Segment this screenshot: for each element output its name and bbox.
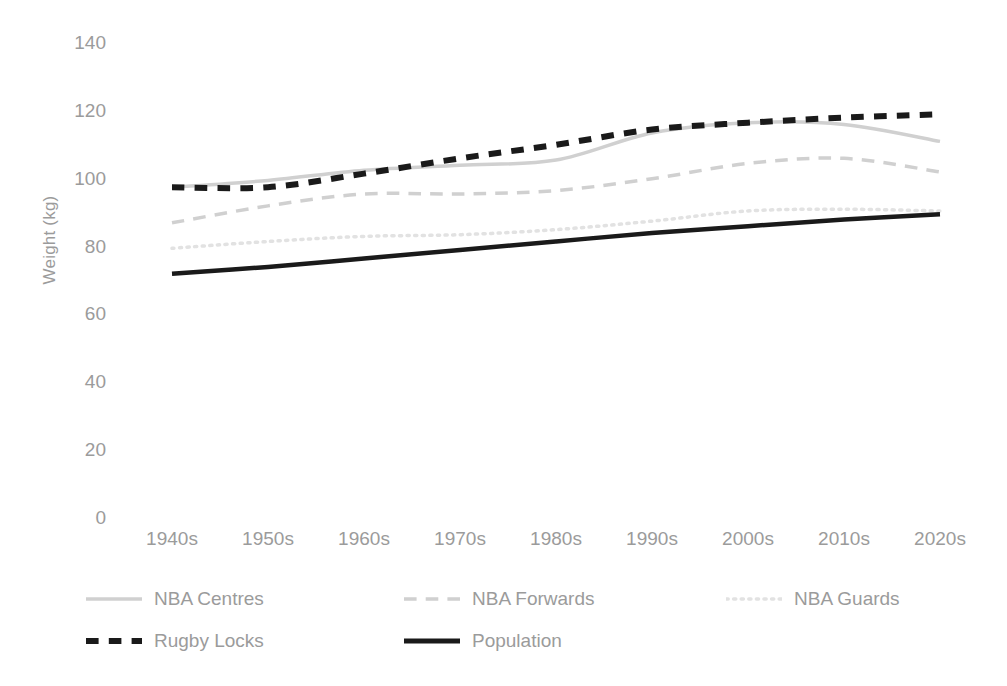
legend-label-population: Population — [472, 630, 562, 652]
legend-swatch-rugby-locks — [86, 633, 142, 649]
chart-legend: NBA Centres NBA Forwards NBA Guards Rugb… — [86, 578, 986, 662]
legend-swatch-nba-forwards — [404, 591, 460, 607]
series-line-nba-forwards — [172, 158, 940, 223]
legend-swatch-nba-centres — [86, 591, 142, 607]
line-chart: Weight (kg) 140120100806040200 1940s1950… — [0, 0, 1007, 686]
legend-label-nba-centres: NBA Centres — [154, 588, 264, 610]
legend-label-nba-forwards: NBA Forwards — [472, 588, 594, 610]
legend-swatch-nba-guards — [726, 591, 782, 607]
plot-area — [0, 0, 1007, 560]
series-line-population — [172, 214, 940, 273]
legend-item-nba-guards[interactable]: NBA Guards — [726, 588, 976, 610]
legend-row-1: NBA Centres NBA Forwards NBA Guards — [86, 578, 986, 620]
legend-item-nba-centres[interactable]: NBA Centres — [86, 588, 404, 610]
legend-item-rugby-locks[interactable]: Rugby Locks — [86, 630, 404, 652]
legend-swatch-population — [404, 633, 460, 649]
legend-label-rugby-locks: Rugby Locks — [154, 630, 264, 652]
legend-item-population[interactable]: Population — [404, 630, 726, 652]
legend-item-nba-forwards[interactable]: NBA Forwards — [404, 588, 726, 610]
legend-row-2: Rugby Locks Population — [86, 620, 986, 662]
legend-label-nba-guards: NBA Guards — [794, 588, 900, 610]
series-line-nba-centres — [172, 122, 940, 187]
